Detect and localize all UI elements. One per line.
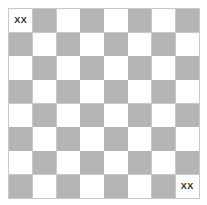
board-cell[interactable] <box>57 9 80 32</box>
board-cell[interactable] <box>104 175 127 198</box>
board-cell[interactable] <box>57 127 80 150</box>
board-cell[interactable] <box>104 33 127 56</box>
board-cell[interactable] <box>152 151 175 174</box>
board-cell[interactable] <box>33 56 56 79</box>
board-cell[interactable] <box>104 56 127 79</box>
board-cell[interactable] <box>80 104 103 127</box>
board-cell[interactable] <box>33 151 56 174</box>
board-cell[interactable] <box>104 80 127 103</box>
board-cell[interactable] <box>128 33 151 56</box>
board-cell[interactable] <box>128 56 151 79</box>
board-cell[interactable] <box>57 56 80 79</box>
board-cell[interactable] <box>33 127 56 150</box>
board-cell[interactable] <box>9 80 32 103</box>
board-cell[interactable] <box>104 127 127 150</box>
board-cell[interactable] <box>152 127 175 150</box>
checkerboard-container: XXXX <box>8 8 200 199</box>
board-cell[interactable] <box>128 80 151 103</box>
board-cell[interactable] <box>152 56 175 79</box>
board-cell[interactable] <box>80 127 103 150</box>
board-cell[interactable] <box>9 56 32 79</box>
board-cell[interactable]: XX <box>9 9 32 32</box>
board-cell[interactable] <box>128 127 151 150</box>
board-cell[interactable] <box>9 104 32 127</box>
board-cell[interactable] <box>176 56 199 79</box>
board-cell[interactable] <box>9 127 32 150</box>
board-cell[interactable] <box>57 80 80 103</box>
board-cell[interactable] <box>104 9 127 32</box>
board-cell[interactable] <box>57 175 80 198</box>
board-cell[interactable] <box>9 33 32 56</box>
board-cell[interactable] <box>33 175 56 198</box>
board-cell[interactable] <box>80 9 103 32</box>
board-cell[interactable] <box>80 80 103 103</box>
board-cell[interactable] <box>176 151 199 174</box>
board-cell[interactable] <box>80 151 103 174</box>
board-cell[interactable] <box>176 80 199 103</box>
board-cell[interactable] <box>33 9 56 32</box>
board-cell[interactable] <box>57 33 80 56</box>
board-cell[interactable] <box>152 175 175 198</box>
board-cell[interactable] <box>80 56 103 79</box>
board-cell[interactable] <box>176 104 199 127</box>
board-cell[interactable] <box>128 175 151 198</box>
board-cell[interactable] <box>128 9 151 32</box>
board-cell[interactable] <box>176 127 199 150</box>
board-cell[interactable]: XX <box>176 175 199 198</box>
board-cell[interactable] <box>152 104 175 127</box>
board-cell[interactable] <box>128 151 151 174</box>
board-cell[interactable] <box>80 33 103 56</box>
board-cell[interactable] <box>176 33 199 56</box>
board-cell[interactable] <box>33 80 56 103</box>
board-cell[interactable] <box>33 104 56 127</box>
cell-label: XX <box>14 16 27 25</box>
board-cell[interactable] <box>176 9 199 32</box>
cell-label: XX <box>181 182 194 191</box>
board-cell[interactable] <box>152 9 175 32</box>
board-cell[interactable] <box>57 151 80 174</box>
board-cell[interactable] <box>9 175 32 198</box>
board-cell[interactable] <box>104 104 127 127</box>
board-cell[interactable] <box>128 104 151 127</box>
board-cell[interactable] <box>152 33 175 56</box>
board-cell[interactable] <box>152 80 175 103</box>
board-cell[interactable] <box>80 175 103 198</box>
checkerboard-grid: XXXX <box>8 8 200 199</box>
board-cell[interactable] <box>104 151 127 174</box>
board-cell[interactable] <box>57 104 80 127</box>
board-cell[interactable] <box>9 151 32 174</box>
board-cell[interactable] <box>33 33 56 56</box>
